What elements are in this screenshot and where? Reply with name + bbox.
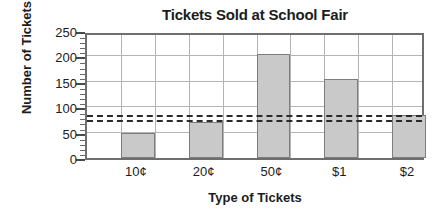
gridline-y-200	[87, 55, 422, 56]
gridline-x-4	[223, 35, 224, 158]
chart-title: Tickets Sold at School Fair	[85, 6, 425, 23]
gridline-x-8	[358, 35, 359, 158]
gridline-x-2	[155, 35, 156, 158]
x-tick-label-50¢: 50¢	[238, 164, 306, 179]
x-tick-label-10¢: 10¢	[102, 164, 170, 179]
gridline-y-150	[87, 81, 422, 82]
y-axis-tick-labels: 050100150200250	[39, 0, 77, 215]
x-tick-label-$2: $2	[373, 164, 441, 179]
y-tick-label-100: 100	[41, 102, 77, 115]
upper-dashed-line	[87, 115, 422, 117]
x-axis-tick-labels: 10¢20¢50¢$1$2	[85, 164, 424, 186]
bar-chart-figure: Tickets Sold at School Fair Number of Ti…	[0, 0, 446, 215]
y-tick-major-250	[76, 32, 85, 34]
y-tick-label-50: 50	[41, 128, 77, 141]
plot-area	[85, 33, 424, 160]
bar-$1	[324, 79, 358, 158]
y-tick-label-200: 200	[41, 51, 77, 64]
bar-50¢	[257, 54, 291, 158]
bar-10¢	[121, 133, 155, 158]
gridline-y-100	[87, 106, 422, 107]
y-tick-major-0	[76, 159, 85, 161]
y-tick-major-150	[76, 83, 85, 85]
y-tick-major-200	[76, 57, 85, 59]
x-tick-label-20¢: 20¢	[170, 164, 238, 179]
y-tick-label-250: 250	[41, 26, 77, 39]
x-axis-title: Type of Tickets	[85, 190, 425, 205]
x-tick-label-$1: $1	[305, 164, 373, 179]
y-tick-label-150: 150	[41, 77, 77, 90]
gridline-x-6	[290, 35, 291, 158]
y-tick-label-0: 0	[41, 153, 77, 166]
y-tick-major-50	[76, 134, 85, 136]
bar-20¢	[189, 122, 223, 158]
y-tick-major-100	[76, 108, 85, 110]
lower-dashed-line	[87, 120, 422, 122]
